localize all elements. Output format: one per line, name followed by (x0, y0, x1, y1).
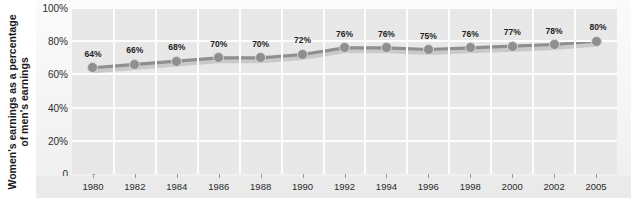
data-point-label: 64% (84, 49, 101, 59)
gridline-vertical (281, 8, 283, 174)
data-point-label: 76% (336, 29, 353, 39)
gridline-vertical (406, 8, 408, 174)
data-point[interactable] (423, 44, 434, 55)
x-tick-label: 1980 (82, 181, 103, 192)
gridline-horizontal (72, 7, 617, 9)
y-tick-label: 40% (28, 102, 68, 113)
y-axis-title-line-1: Women's earnings as a percentage (6, 14, 18, 189)
x-tick-mark (219, 174, 220, 178)
x-tick-label: 2005 (585, 181, 606, 192)
x-tick-mark (596, 174, 597, 178)
x-tick-label: 1988 (250, 181, 271, 192)
x-tick-mark (470, 174, 471, 178)
gridline-vertical (197, 8, 199, 174)
gridline-horizontal (72, 73, 617, 75)
data-point-label: 70% (210, 39, 227, 49)
x-axis-ticks: 1980198219841986198819901992199419961998… (72, 174, 617, 202)
data-point-label: 75% (420, 31, 437, 41)
x-tick-label: 1998 (460, 181, 481, 192)
data-point-label: 76% (462, 29, 479, 39)
x-tick-mark (135, 174, 136, 178)
x-tick-mark (177, 174, 178, 178)
line-chart: Women's earnings as a percentage of men'… (0, 0, 631, 204)
gridline-horizontal (72, 107, 617, 109)
data-point[interactable] (297, 49, 308, 60)
gridline-vertical (574, 8, 576, 174)
gridline-vertical (113, 8, 115, 174)
data-point-label: 66% (126, 45, 143, 55)
y-tick-label: 80% (28, 36, 68, 47)
x-tick-label: 1990 (292, 181, 313, 192)
data-point-label: 76% (378, 29, 395, 39)
x-tick-mark (303, 174, 304, 178)
data-point-label: 78% (546, 26, 563, 36)
gridline-vertical (364, 8, 366, 174)
x-tick-mark (261, 174, 262, 178)
x-tick-mark (428, 174, 429, 178)
gridline-vertical (532, 8, 534, 174)
data-point-label: 77% (504, 27, 521, 37)
data-point[interactable] (171, 56, 182, 67)
data-point[interactable] (549, 39, 560, 50)
x-tick-label: 1982 (124, 181, 145, 192)
data-point-label: 70% (252, 39, 269, 49)
x-tick-label: 2000 (502, 181, 523, 192)
data-point[interactable] (591, 36, 602, 47)
data-point-label: 72% (294, 35, 311, 45)
y-tick-label: 60% (28, 69, 68, 80)
x-tick-label: 1984 (166, 181, 187, 192)
x-tick-label: 1994 (376, 181, 397, 192)
gridline-vertical (239, 8, 241, 174)
x-tick-mark (386, 174, 387, 178)
x-tick-label: 1992 (334, 181, 355, 192)
gridline-vertical (155, 8, 157, 174)
x-tick-mark (93, 174, 94, 178)
x-tick-label: 1996 (418, 181, 439, 192)
data-point-label: 80% (590, 22, 607, 32)
plot-area: 64%66%68%70%70%72%76%76%75%76%77%78%80% (72, 8, 617, 174)
x-tick-label: 1986 (208, 181, 229, 192)
y-tick-label: 20% (28, 135, 68, 146)
x-tick-label: 2002 (544, 181, 565, 192)
x-tick-mark (345, 174, 346, 178)
data-point-label: 68% (168, 42, 185, 52)
gridline-vertical (490, 8, 492, 174)
y-axis-ticks: 020%40%60%80%100% (24, 8, 68, 174)
y-tick-label: 100% (28, 3, 68, 14)
gridline-horizontal (72, 140, 617, 142)
x-tick-mark (512, 174, 513, 178)
data-point[interactable] (507, 41, 518, 52)
x-tick-mark (554, 174, 555, 178)
gridline-vertical (448, 8, 450, 174)
gridline-vertical (323, 8, 325, 174)
